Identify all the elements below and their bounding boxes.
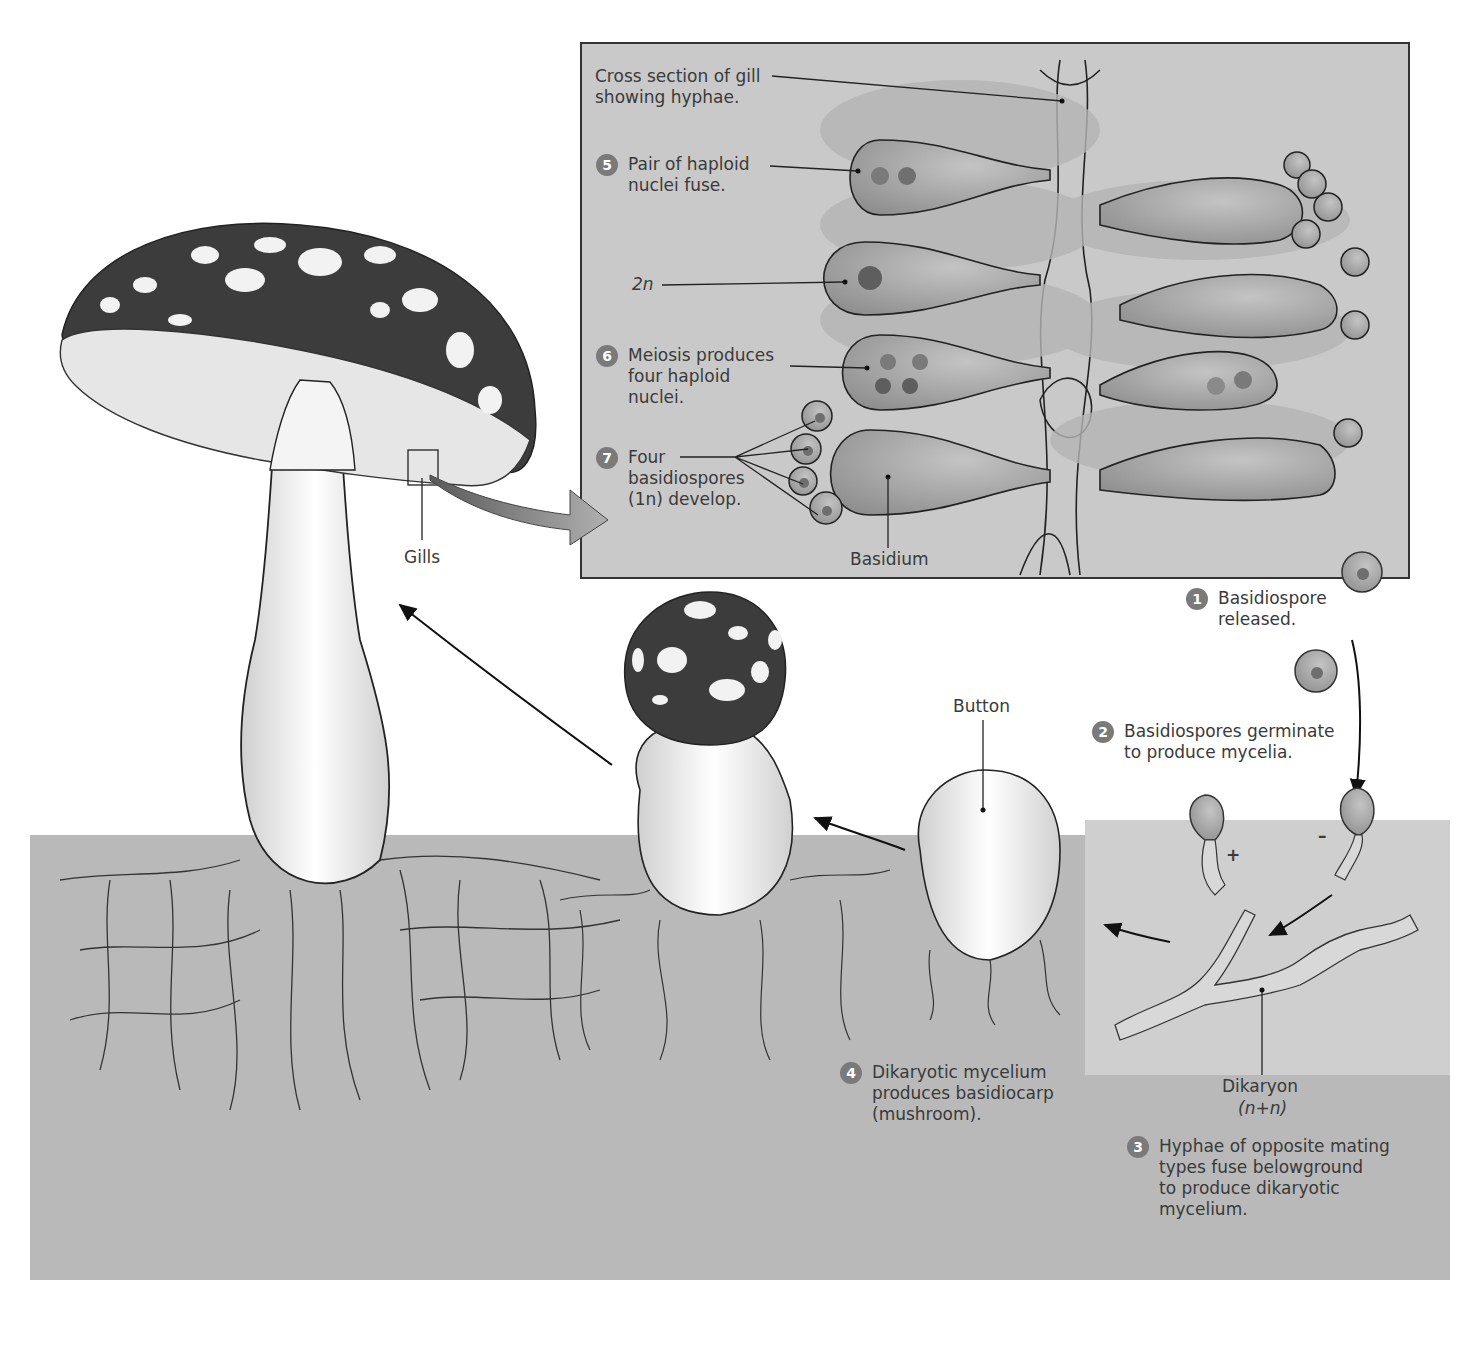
step-1: 1 Basidiospore released.: [1186, 588, 1327, 630]
step-badge: 1: [1186, 588, 1208, 610]
germinating-spore-minus: [1335, 788, 1374, 880]
step-text: Four basidiospores (1n) develop.: [628, 447, 745, 510]
inset-title: Cross section of gill showing hyphae.: [595, 66, 760, 108]
step-text: Hyphae of opposite mating types fuse bel…: [1159, 1136, 1390, 1220]
step-badge: 4: [840, 1062, 862, 1084]
basidiospore-released: [1342, 552, 1382, 592]
button-label: Button: [953, 696, 1010, 717]
basidium-left-4: [831, 430, 1050, 515]
step-4: 4 Dikaryotic mycelium produces basidioca…: [840, 1062, 1054, 1125]
step-badge: 7: [596, 447, 618, 469]
germinating-spore-plus: [1190, 795, 1225, 895]
step-6: 6 Meiosis produces four haploid nuclei.: [596, 345, 774, 408]
gills-label: Gills: [404, 547, 440, 568]
step-badge: 5: [596, 154, 618, 176]
button-stage: [918, 720, 1060, 1025]
basidium-label: Basidium: [850, 549, 929, 570]
step-badge: 6: [596, 345, 618, 367]
step-text: Basidiospores germinate to produce mycel…: [1124, 721, 1335, 763]
dikaryotic-hyphae: [1115, 910, 1418, 1040]
basidiospore-falling: [1295, 650, 1337, 692]
step-3: 3 Hyphae of opposite mating types fuse b…: [1127, 1136, 1390, 1220]
step-badge: 2: [1092, 721, 1114, 743]
step-text: Dikaryotic mycelium produces basidiocarp…: [872, 1062, 1054, 1125]
step-5: 5 Pair of haploid nuclei fuse.: [596, 154, 749, 196]
mycelium-network-left: [60, 856, 620, 1110]
mature-mushroom: [60, 223, 608, 883]
zoom-arrow-to-inset: [430, 475, 608, 545]
step-7: 7 Four basidiospores (1n) develop.: [596, 447, 745, 510]
step-text: Pair of haploid nuclei fuse.: [628, 154, 749, 196]
mating-type-plus: +: [1226, 845, 1240, 866]
dikaryon-label: Dikaryon: [1222, 1076, 1298, 1097]
dikaryon-ploidy-label: (n+n): [1238, 1098, 1287, 1119]
step-text: Basidiospore released.: [1218, 588, 1327, 630]
ploidy-2n-label: 2n: [632, 274, 654, 295]
young-mushroom: [625, 592, 793, 915]
step-badge: 3: [1127, 1136, 1149, 1158]
step-text: Meiosis produces four haploid nuclei.: [628, 345, 774, 408]
mating-type-minus: –: [1318, 826, 1327, 847]
step-2: 2 Basidiospores germinate to produce myc…: [1092, 721, 1335, 763]
